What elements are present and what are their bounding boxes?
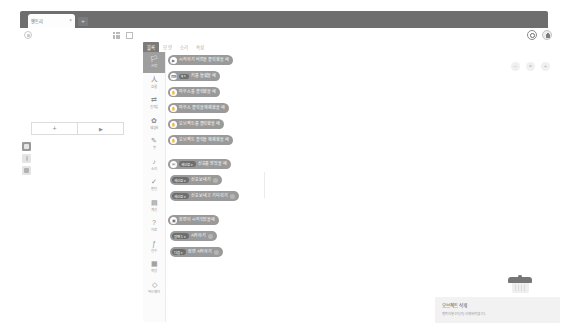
pointer-tool[interactable] xyxy=(22,154,31,163)
block-when-signal-received[interactable]: ✉ 새신호 신호를 받았을 때 xyxy=(168,159,231,169)
stage-tool-stack xyxy=(22,142,31,175)
block-when-object-clicked[interactable]: ✋ 오브젝트를 클릭했을 때 xyxy=(168,119,224,129)
home-icon[interactable] xyxy=(24,31,32,39)
block-broadcast-signal[interactable]: 새신호 신호 보내기 xyxy=(170,175,222,185)
stage-panel: + ▶ xyxy=(0,42,140,331)
block-start-scene[interactable]: 장면 1 시작하기 xyxy=(170,231,217,241)
judgement-icon: ✓ xyxy=(151,179,157,186)
block-broadcast-signal-and-wait[interactable]: 새신호 신호 보내고 기다리기 xyxy=(170,191,239,201)
category-judgement[interactable]: ✓ 판단 xyxy=(143,175,165,196)
trash-can[interactable] xyxy=(508,275,532,295)
pointer-icon xyxy=(26,156,28,161)
editor-tabs: 블록 모양 소리 속성 xyxy=(143,42,209,52)
category-extension[interactable]: ▦ 확장 xyxy=(143,257,165,278)
category-move[interactable]: ⇄ 움직임 xyxy=(143,93,165,114)
block-when-mouse-released[interactable]: ✋ 마우스 클릭을 해제했을 때 xyxy=(168,103,229,113)
flow-icon: 人 xyxy=(151,77,158,84)
block-when-object-released[interactable]: ✋ 오브젝트 클릭을 해제했을 때 xyxy=(168,135,233,145)
category-start[interactable]: 🏳 시작 xyxy=(143,52,165,73)
signal-icon: ✉ xyxy=(170,161,177,168)
block-palette[interactable]: ▶ 시작하기 버튼을 클릭했을 때 ⌨ q 키를 눌렀을 때 ✋ 마우스를 클릭… xyxy=(166,52,426,322)
hand-icon: ✋ xyxy=(170,137,177,144)
hand-icon: ✋ xyxy=(170,89,177,96)
calculation-icon: ▤ xyxy=(151,200,158,207)
scene-icon: ▣ xyxy=(170,217,177,224)
record-ring-icon xyxy=(530,33,535,38)
cursor-icon xyxy=(24,144,29,149)
run-button[interactable]: ▶ xyxy=(78,123,123,134)
block-when-key-pressed[interactable]: ⌨ q 키를 눌렀을 때 xyxy=(168,71,220,81)
record-button[interactable] xyxy=(527,30,537,40)
block-end-icon xyxy=(214,250,219,255)
block-start-next-scene[interactable]: 다음 장면 시작하기 xyxy=(170,247,223,257)
browser-tab-title: 엔트리 xyxy=(31,18,69,24)
zoom-out-button[interactable]: − xyxy=(511,62,520,71)
brush-icon: ✎ xyxy=(151,138,157,145)
signal-dropdown[interactable]: 새신호 xyxy=(179,161,196,167)
panel-divider xyxy=(264,172,265,198)
tab-blocks[interactable]: 블록 xyxy=(143,42,159,52)
data-icon: ? xyxy=(152,220,156,227)
toast-description: 엔트리봇 1이(가) 삭제되었습니다. xyxy=(442,311,553,316)
signal-dropdown[interactable]: 새신호 xyxy=(172,177,189,183)
category-hardware[interactable]: ◇ 하드웨어 xyxy=(143,278,165,299)
block-editor: 블록 모양 소리 속성 🏳 시작 人 흐름 ⇄ 움직임 ✿ 생김새 xyxy=(140,42,566,331)
signal-dropdown[interactable]: 새신호 xyxy=(172,193,189,199)
lock-icon xyxy=(546,34,550,37)
category-data[interactable]: ? 자료 xyxy=(143,216,165,237)
toast-notification: 오브젝트 삭제 엔트리봇 1이(가) 삭제되었습니다. xyxy=(435,297,560,323)
sound-icon: ♪ xyxy=(152,159,155,166)
looks-icon: ✿ xyxy=(151,118,157,125)
category-calculation[interactable]: ▤ 계산 xyxy=(143,196,165,217)
tab-shapes[interactable]: 모양 xyxy=(159,42,175,52)
category-brush[interactable]: ✎ 붓 xyxy=(143,134,165,155)
flag-icon: 🏳 xyxy=(150,56,158,63)
block-when-mouse-clicked[interactable]: ✋ 마우스를 클릭했을 때 xyxy=(168,87,220,97)
category-rail: 🏳 시작 人 흐름 ⇄ 움직임 ✿ 생김새 ✎ 붓 ♪ 소리 xyxy=(143,52,166,322)
zoom-controls: − = + xyxy=(511,62,550,71)
category-function[interactable]: ƒ 함수 xyxy=(143,237,165,258)
scene-dropdown[interactable]: 장면 1 xyxy=(172,233,189,239)
close-icon[interactable]: × xyxy=(69,19,72,24)
object-toolbar: + ▶ xyxy=(31,122,124,135)
browser-tab[interactable]: 엔트리 × xyxy=(28,14,75,28)
tab-properties[interactable]: 속성 xyxy=(192,42,208,52)
block-when-start-clicked[interactable]: ▶ 시작하기 버튼을 클릭했을 때 xyxy=(168,55,233,65)
play-icon: ▶ xyxy=(170,57,177,64)
block-end-icon xyxy=(208,234,213,239)
block-end-icon xyxy=(213,178,218,183)
extension-icon: ▦ xyxy=(151,261,158,268)
browser-tab-bar: 엔트리 × + xyxy=(20,11,548,28)
lock-button[interactable] xyxy=(542,30,552,40)
block-when-scene-starts[interactable]: ▣ 장면이 시작되었을때 xyxy=(168,215,219,225)
hand-icon: ✋ xyxy=(170,121,177,128)
block-end-icon xyxy=(230,194,235,199)
tab-sounds[interactable]: 소리 xyxy=(176,42,192,52)
scene-dropdown[interactable]: 다음 xyxy=(172,249,186,255)
category-looks[interactable]: ✿ 생김새 xyxy=(143,114,165,135)
keyboard-icon: ⌨ xyxy=(170,73,177,80)
expand-icon[interactable] xyxy=(126,32,133,39)
category-flow[interactable]: 人 흐름 xyxy=(143,73,165,94)
toast-title: 오브젝트 삭제 xyxy=(442,302,553,308)
hardware-icon: ◇ xyxy=(152,282,157,289)
function-icon: ƒ xyxy=(152,241,156,248)
hand-icon: ✋ xyxy=(170,105,177,112)
header-actions xyxy=(527,30,552,40)
cursor-tool[interactable] xyxy=(22,142,31,151)
trash-body-icon xyxy=(512,283,529,293)
new-tab-button[interactable]: + xyxy=(78,17,88,26)
frame-icon xyxy=(24,168,29,173)
zoom-in-button[interactable]: + xyxy=(541,62,550,71)
category-sound[interactable]: ♪ 소리 xyxy=(143,155,165,176)
key-dropdown[interactable]: q xyxy=(179,74,189,79)
add-object-button[interactable]: + xyxy=(32,123,78,134)
frame-tool[interactable] xyxy=(22,166,31,175)
app-header xyxy=(0,28,566,42)
zoom-reset-button[interactable]: = xyxy=(526,62,535,71)
entry-app: + ▶ 블록 모양 소리 속성 🏳 시작 人 흐름 xyxy=(0,28,566,331)
move-icon: ⇄ xyxy=(151,97,157,104)
grid-icon[interactable] xyxy=(113,32,120,39)
